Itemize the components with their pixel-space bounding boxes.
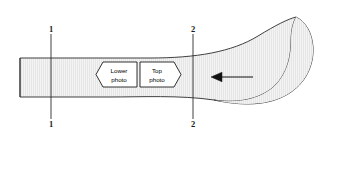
technical-drawing-canvas: 1 1 2 2 Lower photo Top photo bbox=[0, 0, 350, 181]
section-line-2-bottom-label: 2 bbox=[191, 119, 195, 129]
section-line-1-top-label: 1 bbox=[49, 24, 53, 34]
section-line-1-bottom-label: 1 bbox=[49, 119, 53, 129]
callout-lower-photo: Lower photo bbox=[96, 62, 137, 87]
band-shape bbox=[20, 17, 296, 101]
callout-top-photo: Top photo bbox=[140, 62, 181, 87]
callout-lower-photo-line1: Lower bbox=[111, 67, 128, 74]
figure-root: 1 1 2 2 Lower photo Top photo bbox=[0, 0, 350, 181]
callout-top-photo-line2: photo bbox=[149, 76, 165, 83]
section-line-2-top-label: 2 bbox=[191, 24, 195, 34]
callout-top-photo-line1: Top bbox=[152, 67, 163, 74]
band-shape-group bbox=[20, 17, 313, 104]
callout-lower-photo-line2: photo bbox=[111, 76, 127, 83]
